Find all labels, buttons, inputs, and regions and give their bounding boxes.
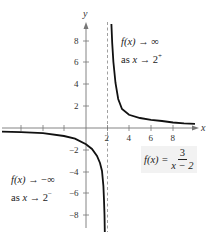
- function-formula: f(x) = 3 x − 2: [141, 146, 197, 173]
- x-tick-label: 2: [105, 133, 110, 143]
- x-tick-label: 4: [127, 133, 132, 143]
- annot-arrow-text: → ∞: [136, 36, 159, 47]
- x-axis-arrow-icon: [192, 126, 199, 131]
- annot-as: as: [11, 192, 22, 203]
- y-tick-label: 6: [74, 57, 79, 67]
- y-tick-label: −2: [69, 145, 79, 155]
- annotation-right-limit: f(x) → ∞ as x → 2+: [121, 34, 162, 67]
- formula-numerator: 3: [178, 147, 187, 160]
- y-tick-label: −8: [69, 210, 79, 220]
- y-tick-label: −4: [69, 167, 79, 177]
- y-tick-label: 2: [74, 101, 79, 111]
- annot-limit: → 2: [137, 54, 158, 65]
- y-axis-arrow-icon: [84, 22, 89, 29]
- annot-fx: f(x): [11, 174, 26, 185]
- y-tick-label: −6: [69, 188, 79, 198]
- x-tick-label: 8: [171, 133, 176, 143]
- annot-sup: +: [158, 52, 162, 60]
- x-tick-label: 6: [149, 133, 154, 143]
- y-axis-label: y: [82, 8, 88, 19]
- formula-lhs: f(x) =: [144, 154, 168, 165]
- y-tick-label: 4: [74, 79, 79, 89]
- annotation-left-limit: f(x) → −∞ as x → 2−: [11, 172, 55, 205]
- x-axis-label: x: [200, 122, 206, 133]
- annot-arrow-text: → −∞: [26, 174, 55, 185]
- annot-fx: f(x): [121, 36, 136, 47]
- y-tick-label: 8: [74, 36, 79, 46]
- annot-as: as: [121, 54, 132, 65]
- annot-limit: → 2: [27, 192, 48, 203]
- formula-denominator: x − 2: [171, 160, 193, 172]
- formula-fraction: 3 x − 2: [171, 147, 193, 172]
- annot-sup: −: [48, 190, 52, 198]
